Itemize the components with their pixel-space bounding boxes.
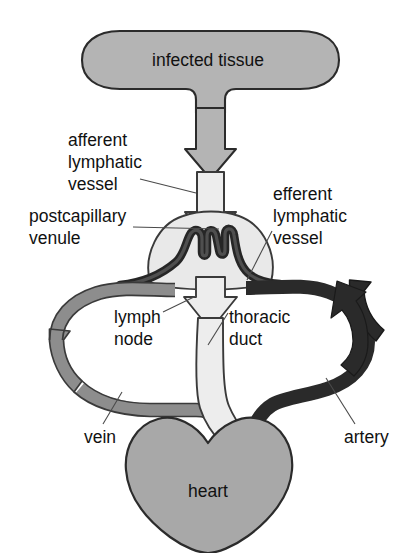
label-postcapillary-line2: venule [29,228,81,248]
label-heart: heart [188,481,228,501]
leader-afferent [140,179,196,193]
label-infected-tissue: infected tissue [152,50,264,70]
afferent-gray-arrow [185,108,236,179]
label-afferent-line1: afferent [68,130,127,150]
lymphatic-diagram: infected tissue afferent lymphatic vesse… [0,0,416,553]
label-afferent-line3: vessel [68,174,118,194]
label-lymph-node-line2: node [114,329,153,349]
label-thoracic-duct-line2: duct [229,329,262,349]
diagram-canvas: infected tissue afferent lymphatic vesse… [0,0,416,553]
label-artery: artery [344,427,389,447]
label-afferent-line2: lymphatic [68,152,142,172]
infected-tissue-shape [82,31,339,113]
label-efferent-line3: vessel [273,228,323,248]
artery-arrowhead [331,281,368,376]
label-lymph-node-line1: lymph [114,307,161,327]
label-thoracic-duct-line1: thoracic [229,307,291,327]
label-vein: vein [84,427,116,447]
label-efferent-line2: lymphatic [273,206,347,226]
label-efferent-line1: efferent [273,184,332,204]
label-postcapillary-line1: postcapillary [29,206,127,226]
